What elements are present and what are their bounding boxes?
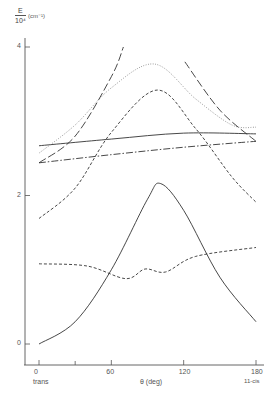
line-chart xyxy=(0,0,280,397)
series-long-dash-left xyxy=(39,47,123,163)
series-long-dash-right xyxy=(185,62,256,141)
series-dash-dot xyxy=(39,141,256,163)
x-axis-label: θ (deg) xyxy=(140,378,162,385)
x-tick-label: 120 xyxy=(179,368,191,375)
y-tick-label: 2 xyxy=(17,191,21,198)
series-solid-lower xyxy=(39,183,256,344)
x-tick-label: 0 xyxy=(34,368,38,375)
series-group xyxy=(39,47,256,344)
series-short-dash-lower xyxy=(39,247,256,278)
x-tick-label: 60 xyxy=(106,368,114,375)
axes xyxy=(24,38,264,365)
annotation-11-cis: 11-cis xyxy=(244,378,260,384)
y-tick-label: 4 xyxy=(17,42,21,49)
x-tick-label: 180 xyxy=(251,368,263,375)
y-tick-label: 0 xyxy=(17,339,21,346)
annotation-trans: trans xyxy=(33,378,49,385)
